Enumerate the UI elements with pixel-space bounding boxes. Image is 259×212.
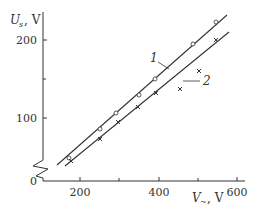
chart: 200 100 0 200 400 600 U s , V V ~ , V (0, 0, 259, 212)
svg-text:, V: , V (207, 191, 224, 205)
x-tick-600: 600 (227, 186, 248, 199)
y-axis-title: U s , V (10, 13, 41, 29)
y-tick-0: 0 (30, 175, 37, 188)
curve-label-1: 1 (150, 51, 158, 65)
curve-label-2: 2 (202, 74, 211, 88)
svg-text:~: ~ (200, 198, 207, 207)
x-axis-title: V ~ , V (192, 191, 224, 207)
y-tick-200: 200 (16, 34, 37, 47)
svg-text:s: s (19, 20, 23, 29)
y-tick-100: 100 (16, 112, 37, 125)
fit-line-1 (57, 15, 227, 165)
x-tick-400: 400 (149, 186, 170, 199)
x-tick-200: 200 (70, 186, 91, 199)
fit-line-2 (65, 32, 229, 166)
svg-text:, V: , V (24, 13, 41, 27)
